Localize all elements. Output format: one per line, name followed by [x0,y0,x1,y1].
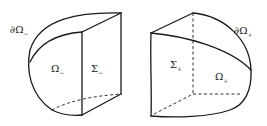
right-inner-top-curve [151,33,251,70]
right-front-vertical-edge [151,33,152,116]
left-outer-boundary-curve [29,13,121,115]
right-solid: ∂Ω+ Σ+ Ω+ [151,13,253,117]
left-hidden-bottom-curve [52,94,121,110]
right-boundary-label: ∂Ω+ [234,25,253,38]
right-hidden-diagonal-edge [154,94,193,114]
right-face-label: Σ+ [170,59,182,72]
left-boundary-label: ∂Ω− [10,24,29,37]
left-region-label: Ω− [51,63,64,76]
left-face-label: Σ− [91,63,103,76]
left-bottom-edge [82,94,121,115]
right-top-edge [151,13,193,33]
domain-split-diagram: ∂Ω− Ω− Σ− ∂Ω+ Σ+ Ω+ [0,0,267,126]
left-solid: ∂Ω− Ω− Σ− [10,13,121,115]
left-top-edge [82,13,121,32]
right-region-label: Ω+ [215,71,228,84]
